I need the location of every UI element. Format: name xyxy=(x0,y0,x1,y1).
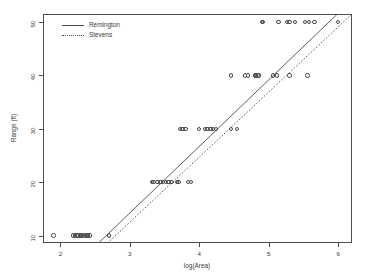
data-point xyxy=(287,73,291,77)
x-tick-label: 3 xyxy=(128,250,131,257)
data-point xyxy=(51,233,55,237)
legend-key-dotted-line xyxy=(62,35,84,36)
legend-item-stevens: Stevens xyxy=(62,30,148,40)
legend-label-stevens: Stevens xyxy=(89,30,112,40)
data-point xyxy=(257,73,261,77)
data-point xyxy=(276,20,280,24)
y-tick-mark xyxy=(39,129,43,130)
data-point xyxy=(107,233,111,237)
legend-key-solid-line xyxy=(62,25,84,26)
legend-label-remington: Remington xyxy=(89,20,120,30)
y-tick-label: 20 xyxy=(30,181,37,188)
data-point xyxy=(261,20,265,24)
x-axis-label: log(Area) xyxy=(184,262,210,269)
legend-item-remington: Remington xyxy=(62,20,148,30)
y-tick-label: 40 xyxy=(30,74,37,81)
data-point xyxy=(214,127,218,131)
data-point xyxy=(229,73,233,77)
data-point xyxy=(287,20,291,24)
x-tick-mark xyxy=(269,243,270,247)
x-tick-mark xyxy=(199,243,200,247)
data-point xyxy=(312,20,316,24)
x-tick-mark xyxy=(60,243,61,247)
y-tick-mark xyxy=(39,22,43,23)
x-tick-mark xyxy=(338,243,339,247)
data-point xyxy=(307,20,311,24)
x-tick-label: 5 xyxy=(267,250,270,257)
x-tick-label: 4 xyxy=(198,250,201,257)
y-axis-label: Range (ft) xyxy=(10,114,17,142)
data-point xyxy=(235,127,239,131)
data-point xyxy=(305,73,309,77)
y-tick-mark xyxy=(39,182,43,183)
data-point xyxy=(183,127,187,131)
legend: Remington Stevens xyxy=(62,20,148,40)
y-tick-label: 30 xyxy=(30,127,37,134)
y-tick-label: 10 xyxy=(30,234,37,241)
data-point xyxy=(336,20,340,24)
data-point xyxy=(229,127,233,131)
y-tick-mark xyxy=(39,236,43,237)
data-point xyxy=(293,20,297,24)
data-point xyxy=(246,73,250,77)
data-point xyxy=(275,73,279,77)
data-point xyxy=(169,180,173,184)
chart-canvas: 23456 1020304050 log(Area) Range (ft) Re… xyxy=(0,0,368,279)
data-point xyxy=(176,180,180,184)
x-tick-label: 2 xyxy=(59,250,62,257)
x-tick-mark xyxy=(130,243,131,247)
plot-area xyxy=(43,14,352,243)
x-tick-label: 6 xyxy=(336,250,339,257)
data-point xyxy=(88,233,92,237)
y-tick-mark xyxy=(39,75,43,76)
data-point xyxy=(189,180,193,184)
y-tick-label: 50 xyxy=(30,21,37,28)
data-point xyxy=(197,127,201,131)
